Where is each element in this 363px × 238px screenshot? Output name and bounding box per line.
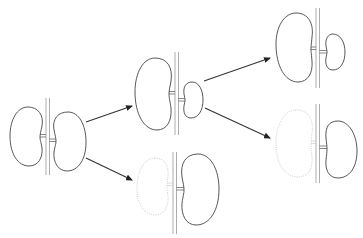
kidney-pair-c xyxy=(137,152,219,234)
right-kidney xyxy=(182,154,219,225)
arrow-a-to-c xyxy=(86,158,132,180)
kidney-pair-a xyxy=(10,98,86,175)
kidney-progression-diagram xyxy=(0,0,363,238)
right-kidney xyxy=(326,34,345,70)
left-kidney xyxy=(276,13,312,82)
left-renal-vessel xyxy=(311,47,316,50)
kidney-pair-e xyxy=(276,104,357,183)
left-renal-vessel xyxy=(40,135,46,138)
left-kidney xyxy=(135,58,171,130)
arrow-a-to-b xyxy=(86,106,132,122)
right-kidney xyxy=(184,82,203,118)
left-renal-vessel-stub xyxy=(311,141,316,144)
arrow-b-to-e xyxy=(205,108,270,138)
left-renal-vessel-stub xyxy=(167,183,173,186)
right-renal-vessel xyxy=(177,188,185,191)
arrow-b-to-d xyxy=(204,58,270,81)
left-kidney xyxy=(10,107,42,166)
removed-left-kidney xyxy=(276,110,312,177)
right-renal-vessel xyxy=(320,146,328,149)
right-renal-vessel xyxy=(320,51,328,54)
kidney-pair-d xyxy=(276,8,345,88)
left-renal-vessel xyxy=(169,92,175,95)
right-kidney xyxy=(54,112,86,171)
removed-left-kidney xyxy=(137,158,168,215)
right-kidney xyxy=(326,121,357,178)
kidney-pair-b xyxy=(135,52,203,135)
right-renal-vessel xyxy=(50,139,57,142)
right-renal-vessel xyxy=(179,99,186,102)
